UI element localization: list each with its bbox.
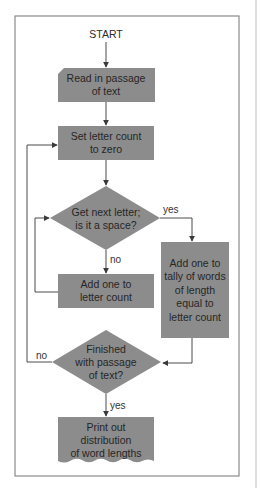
node-add-letter-count: Add one to letter count bbox=[58, 274, 154, 308]
node-tally-line-2: tally of words bbox=[164, 270, 225, 282]
node-tally-line-3: of length bbox=[175, 284, 215, 296]
node-tally-line-5: letter count bbox=[169, 311, 221, 323]
node-read-passage: Read in passage of text bbox=[58, 68, 155, 102]
flowchart-canvas: START Read in passage of text Set letter… bbox=[0, 0, 260, 488]
edge-label-yes-1: yes bbox=[163, 204, 179, 215]
node-tally-line-4: equal to bbox=[176, 297, 214, 309]
node-get-next-letter-decision: Get next letter; is it a space? bbox=[50, 186, 160, 250]
node-set-letter-count: Set letter count to zero bbox=[58, 126, 154, 160]
node-add-tally: Add one to tally of words of length equa… bbox=[161, 242, 229, 338]
node-finished-decision: Finished with passage of text? bbox=[52, 330, 161, 394]
node-add-letter-line-1: Add one to bbox=[81, 278, 132, 290]
node-finished-line-3: of text? bbox=[89, 369, 124, 381]
node-print-line-3: of word lengths bbox=[70, 447, 141, 459]
node-finished-line-2: with passage bbox=[74, 356, 136, 368]
edge-label-yes-2: yes bbox=[110, 400, 126, 411]
node-add-letter-line-2: letter count bbox=[80, 291, 132, 303]
edge-tally-to-finished bbox=[163, 338, 192, 363]
node-read-line-1: Read in passage bbox=[67, 72, 146, 84]
edge-label-no-2: no bbox=[36, 350, 48, 361]
node-get-letter-line-1: Get next letter; bbox=[72, 206, 141, 218]
node-print-line-2: distribution bbox=[81, 434, 132, 446]
node-reset-line-1: Set letter count bbox=[71, 130, 142, 142]
node-print-line-1: Print out bbox=[86, 421, 125, 433]
start-label: START bbox=[89, 28, 123, 40]
edge-label-no-1: no bbox=[110, 254, 122, 265]
node-get-letter-line-2: is it a space? bbox=[75, 219, 136, 231]
edge-finished-no bbox=[27, 145, 57, 362]
flowchart-figure: START Read in passage of text Set letter… bbox=[0, 0, 260, 488]
node-finished-line-1: Finished bbox=[86, 343, 126, 355]
node-read-line-2: of text bbox=[92, 85, 121, 97]
node-print-distribution: Print out distribution of word lengths bbox=[58, 417, 154, 463]
edge-add-letter-loop bbox=[35, 218, 58, 292]
node-reset-line-2: to zero bbox=[90, 143, 122, 155]
edge-get-letter-yes bbox=[160, 218, 192, 241]
node-tally-line-1: Add one to bbox=[170, 257, 221, 269]
